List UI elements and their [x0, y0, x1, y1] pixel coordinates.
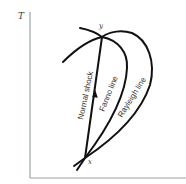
- point-y-label: y: [98, 22, 104, 30]
- t-s-diagram: T y x Normal shock Fanno line Rayleigh l…: [0, 0, 186, 184]
- point-x-label: x: [88, 158, 92, 166]
- y-axis-label: T: [18, 11, 25, 21]
- normal-shock-label: Normal shock: [76, 70, 95, 121]
